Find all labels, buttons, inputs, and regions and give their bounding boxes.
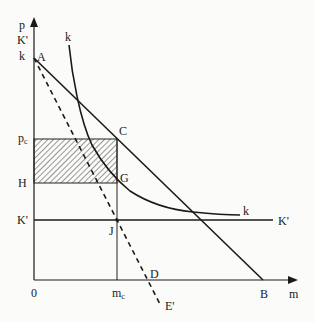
y-tick-label-pc: pc xyxy=(18,132,28,146)
pc-subscript: c xyxy=(24,137,28,146)
shaded-rectangle xyxy=(34,139,117,183)
curve-label-k-top: k xyxy=(65,31,71,43)
mc-main: m xyxy=(112,286,121,300)
y-axis-label-k-prime: K' xyxy=(17,34,28,46)
y-tick-label-k-prime: K' xyxy=(17,214,28,226)
x-axis-arrow-icon xyxy=(288,276,298,284)
point-label-e-prime: E' xyxy=(165,300,175,312)
x-axis-label-m: m xyxy=(289,288,298,300)
point-label-j: J xyxy=(109,225,114,237)
y-tick-label-h: H xyxy=(18,177,27,189)
point-label-a: A xyxy=(37,51,46,63)
curve-label-k-prime-end: K' xyxy=(278,215,289,227)
point-label-d: D xyxy=(150,268,159,280)
origin-label: 0 xyxy=(31,287,37,299)
point-j-dot xyxy=(115,218,118,221)
point-label-c: C xyxy=(119,125,127,137)
y-axis-arrow-icon xyxy=(30,17,38,27)
point-label-b: B xyxy=(260,288,268,300)
x-tick-label-mc: mc xyxy=(112,287,125,301)
point-label-g: G xyxy=(120,172,129,184)
y-axis-label-k: k xyxy=(19,50,25,62)
y-axis-label-p: p xyxy=(19,19,25,31)
curve-k xyxy=(69,45,240,215)
curve-label-k-end: k xyxy=(243,205,249,217)
mc-subscript: c xyxy=(121,292,125,301)
